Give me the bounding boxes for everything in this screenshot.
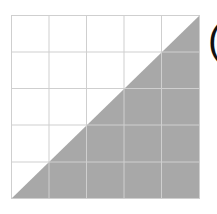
figure-label: ( <box>208 20 217 60</box>
grid-svg <box>11 15 200 199</box>
grid-diagram <box>11 15 200 199</box>
